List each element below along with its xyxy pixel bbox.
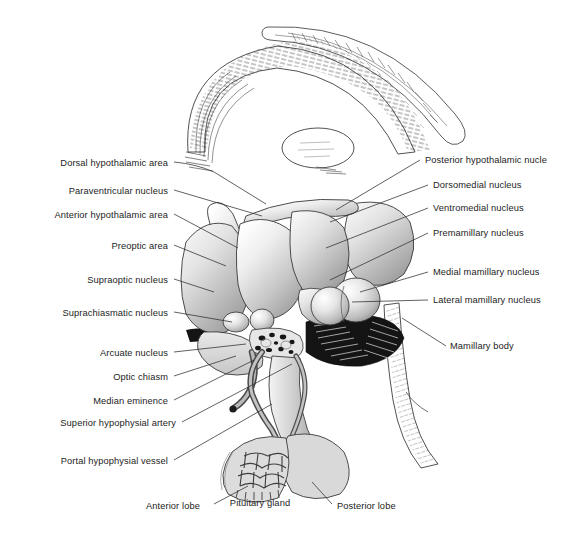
label-dorsal-hypothalamic-area: Dorsal hypothalamic area [0,158,168,169]
label-posterior-lobe: Posterior lobe [337,501,396,512]
label-arcuate-nucleus: Arcuate nucleus [0,348,168,359]
anatomical-figure: Dorsal hypothalamic area Paraventricular… [0,0,575,539]
label-suprachiasmatic-nucleus: Suprachiasmatic nucleus [0,308,168,319]
label-anterior-hypothalamic-area: Anterior hypothalamic area [0,210,168,221]
label-mamillary-body: Mamillary body [450,341,514,352]
label-preoptic-area: Preoptic area [0,241,168,252]
dorsomedial-lobe [290,211,349,295]
label-medial-mamillary-nucleus: Medial mamillary nucleus [433,267,540,278]
label-median-eminence: Median eminence [0,396,168,407]
label-paraventricular-nucleus: Paraventricular nucleus [0,186,168,197]
posterior-pituitary-lobe [281,434,349,499]
fornix-shading [185,152,213,171]
label-portal-hypophysial-vessel: Portal hypophysial vessel [0,456,168,467]
thalamus [282,128,354,174]
label-premamillary-nucleus: Premamillary nucleus [433,228,524,239]
label-optic-chiasm: Optic chiasm [0,372,168,383]
label-pituitary-gland: Pituitary gland [229,498,291,509]
label-ventromedial-nucleus: Ventromedial nucleus [433,203,524,214]
posterior-hypothalamic-lobe [344,202,414,285]
label-anterior-lobe: Anterior lobe [146,501,200,512]
label-posterior-hypothalamic-nucleus: Posterior hypothalamic nucle [425,155,547,166]
label-superior-hypophysial-artery: Superior hypophysial artery [0,418,176,429]
label-supraoptic-nucleus: Supraoptic nucleus [0,275,168,286]
label-lateral-mamillary-nucleus: Lateral mamillary nucleus [433,295,541,306]
label-dorsomedial-nucleus: Dorsomedial nucleus [433,180,522,191]
suprachiasmatic-lobe [223,312,249,332]
